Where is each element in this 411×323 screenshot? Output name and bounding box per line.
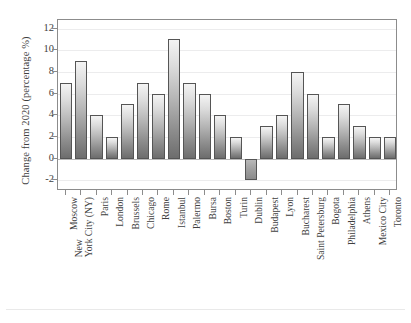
x-tick-label: Turin [239,197,249,218]
y-tick-label: 12 [14,22,54,33]
bar [245,159,257,181]
bar [384,137,396,159]
x-tick-label: Rome [161,197,171,220]
x-tick-mark [374,190,375,195]
x-tick-mark [142,190,143,195]
x-tick-mark [281,190,282,195]
x-tick-label: Chicago [146,197,156,229]
x-tick-mark [312,190,313,195]
x-tick-label: Mexico City [378,197,388,245]
x-tick-mark [389,190,390,195]
x-tick-label: Athens [362,197,372,224]
x-tick-label: Bucharest [301,197,311,235]
bar [230,137,242,159]
x-tick-label: Bogota [331,197,341,225]
x-tick-mark [127,190,128,195]
bar [60,83,72,159]
x-tick-label: Bursa [208,197,218,219]
x-tick-mark [204,190,205,195]
bar [307,94,319,159]
x-tick-label: Boston [223,197,233,224]
x-tick-label: Brussels [131,197,141,230]
y-tick-label: 8 [14,66,54,77]
footer-rule [6,309,405,310]
y-tick-label: -2 [14,174,54,185]
x-tick-mark [327,190,328,195]
bar [152,94,164,159]
bar [121,104,133,158]
x-tick-mark [80,190,81,195]
x-tick-mark [173,190,174,195]
bar [199,94,211,159]
bar [214,115,226,158]
x-tick-mark [358,190,359,195]
x-tick-mark [343,190,344,195]
x-tick-label: Dublin [254,197,264,224]
bar [168,39,180,158]
plot-area [57,19,397,190]
x-tick-mark [235,190,236,195]
x-tick-mark [188,190,189,195]
x-tick-label: Philadelphia [347,197,357,245]
x-tick-mark [65,190,66,195]
x-tick-label: Paris [100,197,110,216]
bar [75,61,87,158]
x-tick-label: Lyon [285,197,295,217]
bar [106,137,118,159]
y-tick-label: 0 [14,152,54,163]
x-tick-mark [297,190,298,195]
y-tick-label: 10 [14,44,54,55]
x-tick-mark [111,190,112,195]
bar [90,115,102,158]
bar-chart-figure: Change from 2020 (percentage %) -2024681… [0,0,411,323]
x-tick-mark [157,190,158,195]
bar [183,83,195,159]
bar [291,72,303,159]
bar [338,104,350,158]
x-tick-label: Istanbul [177,197,187,228]
x-tick-label: Toronto [393,197,403,227]
x-tick-label: NewYork City (NY) [74,197,94,257]
bar-series [58,20,396,189]
x-tick-label: Budapest [270,197,280,233]
x-tick-label: Palermo [192,197,202,229]
bar [322,137,334,159]
x-tick-mark [250,190,251,195]
y-tick-label: 4 [14,109,54,120]
bar [260,126,272,158]
x-tick-label: London [115,197,125,227]
x-tick-label: Saint Petersburg [316,197,326,260]
y-tick-label: 2 [14,131,54,142]
bar [137,83,149,159]
bar [353,126,365,158]
y-tick-label: 6 [14,87,54,98]
x-tick-mark [266,190,267,195]
bar [276,115,288,158]
x-tick-mark [96,190,97,195]
x-tick-mark [219,190,220,195]
bar [369,137,381,159]
